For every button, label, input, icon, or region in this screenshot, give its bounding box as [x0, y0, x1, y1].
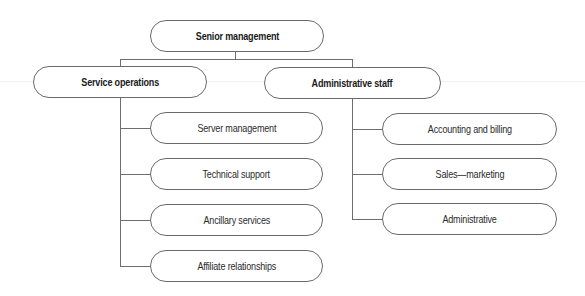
connector-right-down	[352, 59, 353, 67]
node-label: Administrative staff	[312, 77, 393, 89]
connector-left-branch-2	[120, 174, 151, 175]
node-affiliate-relationships: Affiliate relationships	[150, 250, 323, 282]
node-label: Administrative	[442, 213, 496, 225]
connector-right-branch-1	[352, 129, 383, 130]
node-ancillary-services: Ancillary services	[150, 204, 323, 236]
node-technical-support: Technical support	[150, 158, 323, 190]
connector-right-branch-3	[352, 219, 383, 220]
node-label: Sales—marketing	[435, 168, 504, 180]
node-server-management: Server management	[150, 112, 323, 144]
connector-level1-horizontal	[120, 59, 353, 60]
node-service-operations: Service operations	[33, 66, 207, 98]
org-chart: Senior management Service operations Adm…	[0, 0, 585, 296]
node-label: Senior management	[195, 30, 278, 42]
node-label: Service operations	[81, 76, 159, 88]
connector-left-trunk	[120, 98, 121, 267]
node-label: Affiliate relationships	[197, 260, 276, 272]
node-administrative-staff: Administrative staff	[264, 67, 441, 99]
connector-left-branch-4	[120, 266, 151, 267]
node-accounting-and-billing: Accounting and billing	[382, 113, 557, 145]
node-label: Accounting and billing	[427, 123, 511, 135]
connector-left-branch-3	[120, 220, 151, 221]
node-label: Server management	[197, 122, 276, 134]
node-label: Ancillary services	[203, 214, 270, 226]
node-administrative: Administrative	[382, 203, 557, 235]
connector-right-trunk	[352, 98, 353, 220]
node-label: Technical support	[203, 168, 270, 180]
connector-right-branch-2	[352, 174, 383, 175]
connector-left-branch-1	[120, 128, 151, 129]
node-sales-marketing: Sales—marketing	[382, 158, 557, 190]
node-senior-management: Senior management	[150, 20, 324, 52]
